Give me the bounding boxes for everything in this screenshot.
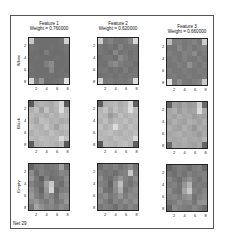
x-tick-label: 4 xyxy=(114,87,116,91)
heatmap-panel xyxy=(166,164,208,212)
y-tick-label: 8 xyxy=(162,81,164,85)
heatmap-panel xyxy=(28,37,70,85)
x-tick-label: 6 xyxy=(194,88,196,92)
y-tick-label: 6 xyxy=(93,131,95,135)
x-tick-label: 6 xyxy=(125,213,127,217)
y-tick-label: 2 xyxy=(162,45,164,49)
y-tick-label: 4 xyxy=(93,182,95,186)
x-tick-label: 4 xyxy=(183,214,185,218)
y-tick-label: 6 xyxy=(24,68,26,72)
y-tick-label: 4 xyxy=(24,56,26,60)
heatmap-panel xyxy=(166,101,208,149)
row-label: White xyxy=(16,49,21,73)
y-tick-label: 8 xyxy=(24,143,26,147)
x-tick-label: 8 xyxy=(135,87,137,91)
heatmap-cell xyxy=(202,205,207,211)
x-tick-label: 4 xyxy=(183,151,185,155)
weight-label: Weight = 0.660000 xyxy=(157,29,217,34)
heatmap-panel xyxy=(97,37,139,85)
x-tick-label: 2 xyxy=(35,87,37,91)
x-tick-label: 6 xyxy=(194,214,196,218)
y-tick-label: 2 xyxy=(162,171,164,175)
x-tick-label: 8 xyxy=(204,151,206,155)
column-title: Feature 1Weight = 0.760000 xyxy=(19,21,79,32)
figure-footer: Net 29 xyxy=(13,221,27,226)
y-tick-label: 2 xyxy=(93,107,95,111)
x-tick-label: 2 xyxy=(35,213,37,217)
y-tick-label: 4 xyxy=(93,56,95,60)
x-tick-label: 2 xyxy=(173,214,175,218)
heatmap-cell xyxy=(202,142,207,148)
y-tick-label: 4 xyxy=(162,57,164,61)
x-tick-label: 2 xyxy=(104,87,106,91)
y-tick-label: 2 xyxy=(24,44,26,48)
x-tick-label: 2 xyxy=(104,213,106,217)
x-tick-label: 8 xyxy=(66,87,68,91)
x-tick-label: 4 xyxy=(183,88,185,92)
row-label: Empty xyxy=(16,175,21,199)
x-tick-label: 6 xyxy=(56,150,58,154)
y-tick-label: 2 xyxy=(24,170,26,174)
y-tick-label: 8 xyxy=(24,80,26,84)
x-tick-label: 4 xyxy=(45,150,47,154)
row-label: Black xyxy=(16,112,21,136)
y-tick-label: 6 xyxy=(162,132,164,136)
heatmap-panel xyxy=(28,100,70,148)
x-tick-label: 8 xyxy=(204,214,206,218)
heatmap-cell xyxy=(64,141,69,147)
y-tick-label: 4 xyxy=(24,119,26,123)
x-tick-label: 2 xyxy=(104,150,106,154)
x-tick-label: 8 xyxy=(135,150,137,154)
y-tick-label: 6 xyxy=(93,68,95,72)
x-tick-label: 6 xyxy=(194,151,196,155)
y-tick-label: 4 xyxy=(162,120,164,124)
column-title: Feature 3Weight = 0.660000 xyxy=(157,24,217,35)
x-tick-label: 6 xyxy=(56,87,58,91)
y-tick-label: 2 xyxy=(93,44,95,48)
y-tick-label: 6 xyxy=(162,69,164,73)
x-tick-label: 2 xyxy=(173,151,175,155)
column-title: Feature 2Weight = 0.620000 xyxy=(88,21,148,32)
x-tick-label: 6 xyxy=(56,213,58,217)
x-tick-label: 6 xyxy=(125,87,127,91)
y-tick-label: 2 xyxy=(24,107,26,111)
y-tick-label: 8 xyxy=(162,207,164,211)
weight-label: Weight = 0.760000 xyxy=(19,26,79,31)
x-tick-label: 8 xyxy=(66,213,68,217)
y-tick-label: 8 xyxy=(24,206,26,210)
y-tick-label: 6 xyxy=(24,194,26,198)
heatmap-cell xyxy=(133,141,138,147)
y-tick-label: 6 xyxy=(162,195,164,199)
heatmap-panel xyxy=(28,163,70,211)
y-tick-label: 8 xyxy=(162,144,164,148)
x-tick-label: 8 xyxy=(66,150,68,154)
y-tick-label: 6 xyxy=(24,131,26,135)
y-tick-label: 8 xyxy=(93,143,95,147)
heatmap-cell xyxy=(133,204,138,210)
y-tick-label: 2 xyxy=(162,108,164,112)
heatmap-cell xyxy=(64,204,69,210)
heatmap-panel xyxy=(97,163,139,211)
y-tick-label: 8 xyxy=(93,206,95,210)
heatmap-panel xyxy=(97,100,139,148)
y-tick-label: 4 xyxy=(162,183,164,187)
y-tick-label: 4 xyxy=(24,182,26,186)
heatmap-cell xyxy=(133,78,138,84)
heatmap-cell xyxy=(64,78,69,84)
x-tick-label: 6 xyxy=(125,150,127,154)
y-tick-label: 8 xyxy=(93,80,95,84)
x-tick-label: 4 xyxy=(45,87,47,91)
weight-label: Weight = 0.620000 xyxy=(88,26,148,31)
x-tick-label: 2 xyxy=(35,150,37,154)
x-tick-label: 4 xyxy=(114,150,116,154)
y-tick-label: 4 xyxy=(93,119,95,123)
y-tick-label: 2 xyxy=(93,170,95,174)
heatmap-panel xyxy=(166,38,208,86)
x-tick-label: 8 xyxy=(135,213,137,217)
x-tick-label: 4 xyxy=(45,213,47,217)
y-tick-label: 6 xyxy=(93,194,95,198)
x-tick-label: 2 xyxy=(173,88,175,92)
heatmap-cell xyxy=(202,79,207,85)
x-tick-label: 4 xyxy=(114,213,116,217)
x-tick-label: 8 xyxy=(204,88,206,92)
